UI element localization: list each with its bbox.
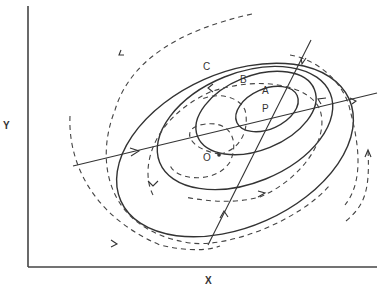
trajectory-mid xyxy=(148,84,322,202)
arrowhead-icon xyxy=(111,240,117,247)
y-axis-label: Y xyxy=(3,120,10,131)
trajectory-right xyxy=(290,55,358,205)
arrowhead-icon xyxy=(318,98,326,104)
trajectory-inner xyxy=(170,124,234,178)
label-o: O xyxy=(203,152,211,163)
trajectory-far-right xyxy=(346,150,368,221)
major-axis-line xyxy=(73,93,377,166)
label-b: B xyxy=(240,74,247,85)
x-axis-label: X xyxy=(205,275,212,286)
label-a: A xyxy=(262,85,269,96)
arrowhead-icon xyxy=(119,50,124,55)
steep-line xyxy=(208,40,311,245)
arrowhead-icon xyxy=(208,84,213,92)
contour-c xyxy=(89,29,380,271)
arrowhead-icon xyxy=(220,211,228,218)
trajectory-outer xyxy=(106,14,330,244)
label-c: C xyxy=(203,61,210,72)
label-p: P xyxy=(262,103,269,114)
phase-plane-diagram: Y X C B A P O xyxy=(0,0,384,292)
trajectory-o xyxy=(200,96,246,154)
point-o xyxy=(217,153,221,157)
